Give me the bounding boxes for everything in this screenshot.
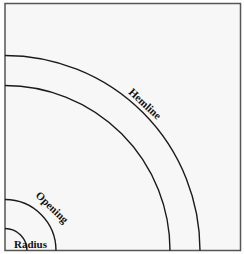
skirt-pattern-diagram: Hemline Opening Radius bbox=[0, 0, 244, 254]
radius-label: Radius bbox=[14, 238, 48, 250]
